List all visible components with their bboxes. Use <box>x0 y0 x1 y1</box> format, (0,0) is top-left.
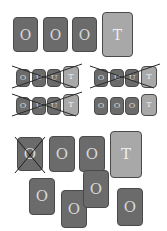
cross-out-icon <box>13 137 47 173</box>
card-label: O <box>124 200 136 215</box>
mini-group-1-crossed: O U U T <box>14 66 80 88</box>
mini-card: O <box>94 97 108 115</box>
card-label: O <box>79 28 90 42</box>
mini-group-3-crossed: O U U T <box>14 94 80 116</box>
card-label: O <box>50 28 61 42</box>
card-o: O <box>79 136 105 172</box>
card-label: O <box>36 189 48 204</box>
card-label: O <box>114 102 121 110</box>
card-o-1: O <box>13 17 38 52</box>
card-t: T <box>110 131 142 178</box>
card-label: T <box>146 101 151 109</box>
cross-out-icon <box>92 66 158 88</box>
card-label: T <box>121 147 131 162</box>
scattered-card-o: O <box>83 170 109 208</box>
mini-card: O <box>110 97 124 115</box>
scattered-card-o: O <box>29 178 55 215</box>
cross-out-icon <box>14 66 80 88</box>
card-label: O <box>90 182 102 197</box>
card-o-2: O <box>43 17 68 52</box>
card-label: O <box>98 102 105 110</box>
card-t: T <box>102 12 133 57</box>
scattered-card-o: O <box>117 188 143 226</box>
card-label: O <box>56 147 68 162</box>
card-label: O <box>129 102 136 110</box>
card-o-3: O <box>72 17 97 52</box>
card-label: O <box>86 147 98 162</box>
mini-card: O <box>125 97 139 115</box>
cross-out-icon <box>14 94 80 116</box>
card-label: T <box>113 28 122 42</box>
card-label: O <box>68 202 80 217</box>
card-o: O <box>49 136 75 172</box>
mini-group-2-crossed: O U U T <box>92 66 158 88</box>
card-label: O <box>20 28 31 42</box>
mini-group-4-valid: O O O T <box>92 94 158 116</box>
mini-card: T <box>141 94 157 116</box>
